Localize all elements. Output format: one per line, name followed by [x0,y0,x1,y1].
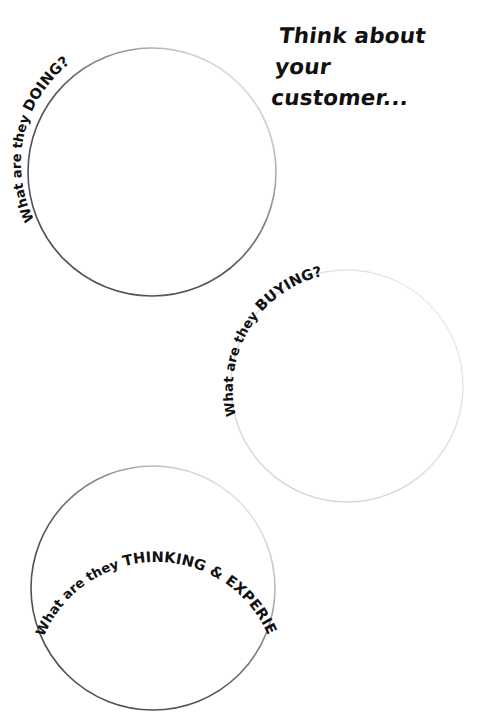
worksheet-page: What are they DOING? What are they BUYIN… [0,0,486,727]
circle-group-doing[interactable]: What are they DOING? [9,48,276,296]
circle-group-buying[interactable]: What are they BUYING? [221,262,463,502]
circle-outline-doing[interactable] [28,48,276,296]
page-title: Think about your customer... [270,20,471,113]
